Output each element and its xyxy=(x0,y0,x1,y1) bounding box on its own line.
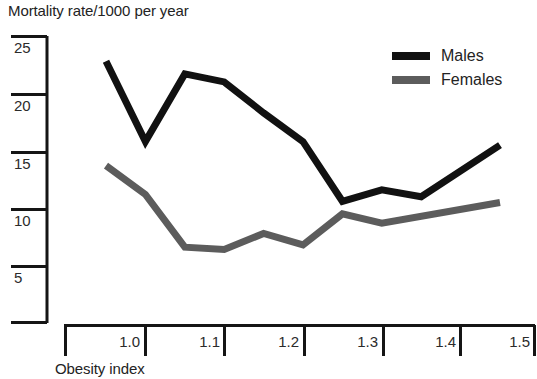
legend-label-females: Females xyxy=(441,71,502,89)
y-tick-label-15: 15 xyxy=(14,156,31,172)
x-tick-label-1-2: 1.2 xyxy=(237,334,299,350)
y-tick-label-10: 10 xyxy=(14,213,31,229)
x-tick-label-1-4: 1.4 xyxy=(394,334,456,350)
legend-swatch-females-icon xyxy=(392,76,430,84)
legend-item-males: Males xyxy=(392,44,502,68)
series-line-females xyxy=(106,166,500,250)
x-tick-label-1-1: 1.1 xyxy=(158,334,220,350)
y-tick-label-25: 25 xyxy=(14,40,31,56)
legend-swatch-males-icon xyxy=(392,52,430,60)
chart-figure: Mortality rate/1000 per year 25 20 15 10… xyxy=(0,0,537,379)
y-tick-label-5: 5 xyxy=(14,270,22,286)
y-tick-label-20: 20 xyxy=(14,98,31,114)
x-axis-title: Obesity index xyxy=(55,360,145,378)
x-tick-label-1-0: 1.0 xyxy=(78,334,140,350)
x-tick-label-1-5: 1.5 xyxy=(468,334,530,350)
chart-legend: Males Females xyxy=(392,44,502,92)
legend-item-females: Females xyxy=(392,68,502,92)
x-tick-label-1-3: 1.3 xyxy=(316,334,378,350)
legend-label-males: Males xyxy=(441,47,484,65)
